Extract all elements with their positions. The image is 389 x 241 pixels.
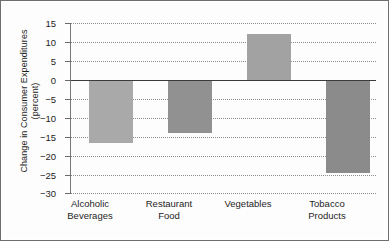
y-tick-label--5: −5	[22, 94, 56, 105]
y-tick-label--15: −15	[22, 132, 56, 143]
y-tick--15	[65, 137, 71, 138]
y-tick--25	[65, 175, 71, 176]
bar-restaurant-food[interactable]	[168, 80, 212, 133]
y-tick--30	[65, 193, 71, 194]
y-tick-10	[65, 42, 71, 43]
y-tick-label--20: −20	[22, 151, 56, 162]
bar-vegetables[interactable]	[247, 34, 291, 80]
y-axis-line	[70, 23, 71, 194]
plot-area	[71, 23, 376, 194]
category-label-line2: Food	[123, 210, 215, 222]
gridline--30	[71, 193, 376, 194]
gridline-15	[71, 23, 376, 24]
zero-line	[71, 80, 376, 81]
y-tick-label--10: −10	[22, 113, 56, 124]
y-tick--5	[65, 99, 71, 100]
category-label-tobacco-products: Tobacco Products	[281, 198, 373, 221]
gridline-5	[71, 61, 376, 62]
y-tick--20	[65, 156, 71, 157]
y-tick-label-15: 15	[22, 18, 56, 29]
bar-alcoholic-beverages[interactable]	[89, 80, 133, 143]
chart-canvas: Change in Consumer Expenditures (percent…	[2, 2, 387, 239]
y-tick-label-5: 5	[22, 56, 56, 67]
y-tick--10	[65, 118, 71, 119]
y-tick-label-10: 10	[22, 37, 56, 48]
gridline-10	[71, 42, 376, 43]
bar-tobacco-products[interactable]	[326, 80, 370, 173]
y-tick-label-0: 0	[22, 75, 56, 86]
chart-frame: Change in Consumer Expenditures (percent…	[0, 0, 389, 241]
category-label-line1: Tobacco	[281, 198, 373, 210]
y-tick-15	[65, 23, 71, 24]
y-tick-5	[65, 61, 71, 62]
category-label-line2: Products	[281, 210, 373, 222]
y-tick-label--25: −25	[22, 170, 56, 181]
gridline--25	[71, 175, 376, 176]
